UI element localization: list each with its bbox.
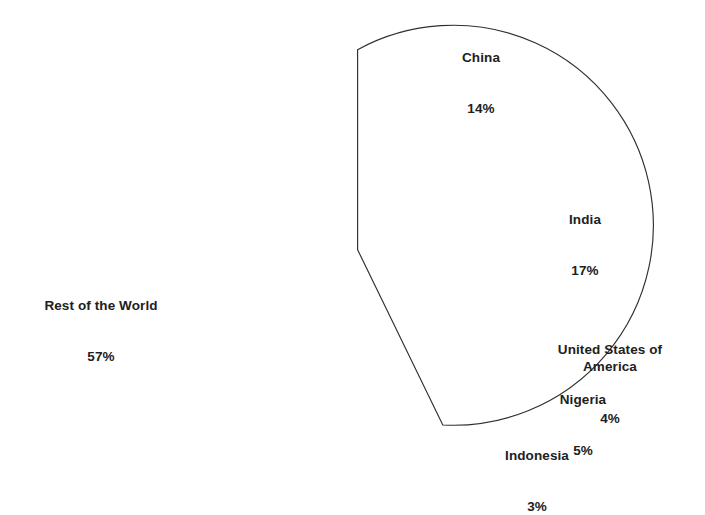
pie-label-indonesia-percent: 3% <box>462 498 612 515</box>
pie-label-india-percent: 17% <box>520 262 650 279</box>
pie-label-india-name: India <box>520 211 650 228</box>
pie-label-nigeria-name: Nigeria <box>518 391 648 408</box>
pie-label-china-percent: 14% <box>406 100 556 117</box>
pie-label-china: China 14% <box>406 14 556 152</box>
pie-label-rest-of-the-world: Rest of the World 57% <box>6 262 196 400</box>
pie-label-indonesia-name: Indonesia <box>462 447 612 464</box>
pie-label-china-name: China <box>406 49 556 66</box>
pie-label-indonesia: Indonesia 3% <box>462 412 612 515</box>
pie-label-row-percent: 57% <box>6 348 196 365</box>
pie-label-row-name: Rest of the World <box>6 297 196 314</box>
pie-label-india: India 17% <box>520 176 650 314</box>
